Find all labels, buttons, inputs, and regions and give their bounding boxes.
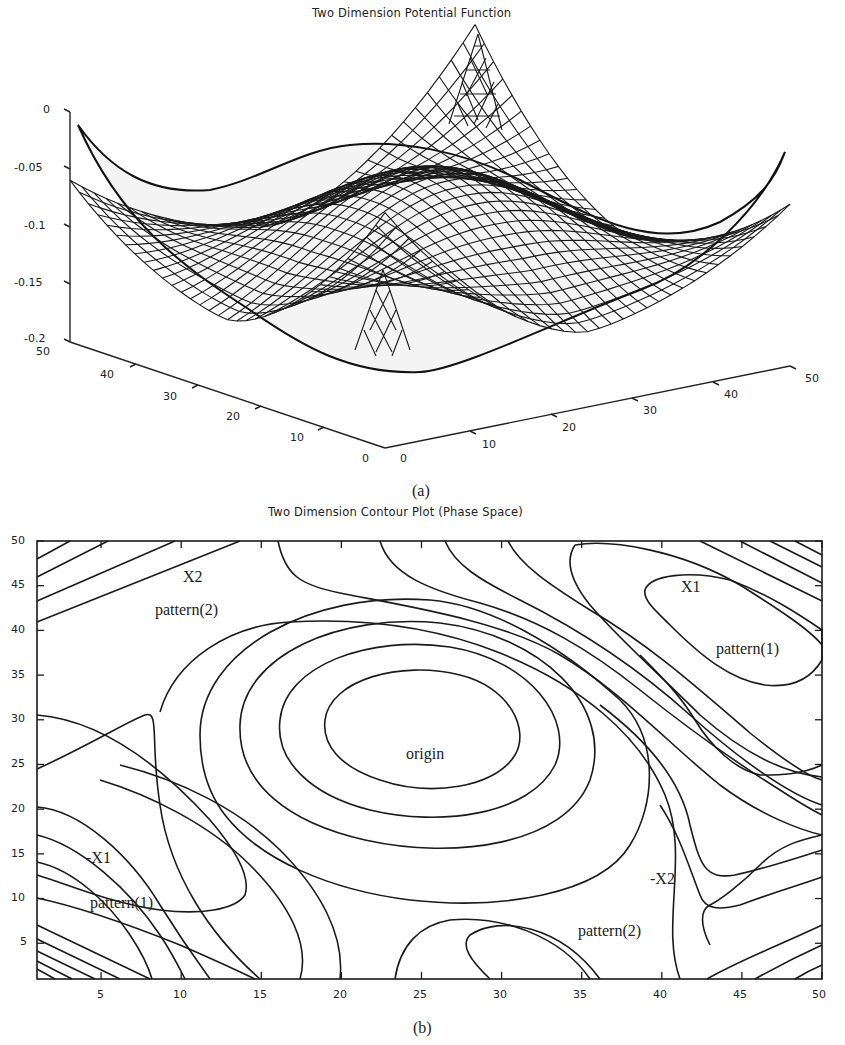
x-tick-label: 0: [400, 452, 407, 465]
annotation-neg-x1: -X1: [86, 849, 111, 867]
back-spike: [449, 34, 502, 130]
x-tick-label: 50: [805, 372, 819, 385]
y-tick-label: 40: [11, 623, 25, 636]
x-tick-label: 30: [643, 404, 657, 417]
z-tick-label: -0.1: [24, 219, 45, 232]
x-tick-label: 20: [333, 988, 347, 1001]
x-tick-label: 40: [653, 988, 667, 1001]
y-tick-label: 40: [100, 368, 114, 381]
panel-b-contour-plot: Two Dimension Contour Plot (Phase Space): [0, 505, 845, 1045]
z-tick-label: -0.05: [14, 161, 42, 174]
y-tick-label: 20: [226, 410, 240, 423]
y-tick-label: 5: [20, 935, 27, 948]
z-tick-label: -0.15: [14, 276, 42, 289]
annotation-neg-x2: -X2: [650, 870, 675, 888]
y-tick-label: 45: [11, 578, 25, 591]
y-tick-label: 50: [11, 534, 25, 547]
z-tick-label: -0.2: [24, 332, 45, 345]
y-tick-label: 15: [11, 847, 25, 860]
y-tick-label: 25: [11, 757, 25, 770]
x-tick-label: 45: [733, 988, 747, 1001]
annotation-pattern2-top: pattern(2): [155, 601, 218, 619]
annotation-x1: X1: [681, 578, 701, 596]
x-tick-label: 30: [493, 988, 507, 1001]
y-tick-label: 10: [290, 431, 304, 444]
x-tick-label: 25: [413, 988, 427, 1001]
annotation-origin: origin: [406, 745, 444, 763]
panel-a-surface-plot: Two Dimension Potential Function: [0, 0, 845, 505]
z-axis: [64, 109, 70, 342]
x-tick-label: 15: [253, 988, 267, 1001]
y-tick-label: 35: [11, 668, 25, 681]
panel-a-caption: (a): [412, 482, 430, 500]
x-tick-label: 40: [724, 388, 738, 401]
annotation-x2: X2: [183, 568, 203, 586]
surface-mesh-lines: [70, 25, 790, 333]
x-axis: [385, 366, 796, 448]
y-tick-label: 50: [36, 345, 50, 358]
y-tick-label: 30: [11, 712, 25, 725]
x-tick-label: 5: [97, 988, 104, 1001]
x-tick-label: 20: [562, 421, 576, 434]
y-tick-label: 20: [11, 802, 25, 815]
contour-plot-canvas: [0, 505, 845, 1045]
y-tick-label: 0: [362, 452, 369, 465]
z-tick-label: 0: [43, 103, 50, 116]
x-tick-label: 10: [482, 438, 496, 451]
x-tick-label: 10: [173, 988, 187, 1001]
x-tick-label: 35: [573, 988, 587, 1001]
annotation-pattern1-right: pattern(1): [716, 640, 779, 658]
annotation-pattern2-bottom: pattern(2): [578, 922, 641, 940]
surface-mesh-body: [78, 125, 785, 372]
y-tick-label: 10: [11, 891, 25, 904]
x-tick-label: 50: [812, 988, 826, 1001]
panel-b-caption: (b): [413, 1019, 432, 1037]
annotation-pattern1-left: pattern(1): [90, 894, 153, 912]
surface-plot-canvas: [0, 0, 845, 505]
y-tick-label: 30: [163, 390, 177, 403]
